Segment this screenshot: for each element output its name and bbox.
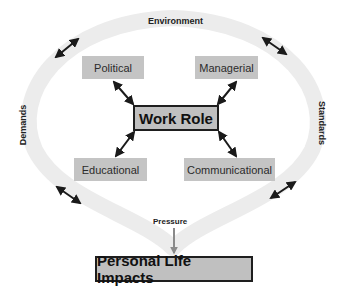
arrow-educational-workrole	[116, 132, 134, 156]
environment-label: Environment	[148, 16, 203, 26]
personal-life-impacts-box: Personal Life Impacts	[95, 256, 253, 282]
node-communicational: Communicational	[184, 158, 275, 181]
standards-label: Standards	[317, 101, 327, 145]
arrow-political-workrole	[114, 82, 133, 104]
node-political: Political	[82, 56, 144, 79]
arrow-managerial-workrole	[218, 82, 236, 104]
arrow-communicational-workrole	[219, 132, 236, 156]
node-educational: Educational	[74, 158, 147, 181]
environment-ring	[29, 18, 318, 248]
node-managerial: Managerial	[195, 56, 258, 79]
pressure-label: Pressure	[153, 217, 187, 226]
diagram-canvas	[0, 0, 347, 295]
demands-label: Demands	[18, 105, 28, 146]
work-role-box: Work Role	[133, 105, 219, 131]
